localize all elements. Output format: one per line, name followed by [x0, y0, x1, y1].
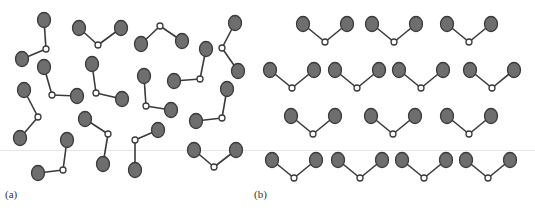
center-atom — [143, 103, 149, 109]
center-atom — [197, 76, 203, 82]
outer-atom — [188, 143, 201, 158]
molecule — [219, 16, 245, 79]
molecule — [79, 112, 112, 172]
molecule — [396, 153, 453, 182]
outer-atom — [437, 63, 450, 78]
molecule — [188, 143, 243, 171]
molecule — [266, 153, 323, 182]
outer-atom — [341, 17, 354, 32]
outer-atom — [71, 89, 84, 104]
molecule — [393, 63, 450, 92]
molecule — [38, 60, 84, 104]
center-atom — [418, 85, 424, 91]
molecule — [285, 109, 342, 138]
center-atom — [466, 131, 472, 137]
figure: (a) (b) — [0, 0, 535, 211]
outer-atom — [504, 153, 517, 168]
molecule — [264, 63, 321, 92]
molecule — [329, 63, 386, 92]
outer-atom — [329, 63, 342, 78]
panel-a-disordered — [14, 13, 245, 181]
outer-atom — [116, 92, 129, 107]
outer-atom — [200, 42, 213, 57]
outer-atom — [232, 64, 245, 79]
outer-atom — [460, 153, 473, 168]
outer-atom — [176, 34, 189, 49]
panel-b-label: (b) — [254, 188, 267, 200]
outer-atom — [441, 17, 454, 32]
outer-atom — [16, 52, 29, 67]
outer-atom — [410, 17, 423, 32]
center-atom — [391, 39, 397, 45]
outer-atom — [373, 63, 386, 78]
outer-atom — [152, 123, 165, 138]
center-atom — [354, 85, 360, 91]
outer-atom — [79, 112, 92, 127]
molecule — [366, 17, 423, 46]
molecule — [460, 153, 517, 182]
center-atom — [211, 164, 217, 170]
outer-atom — [508, 63, 521, 78]
outer-atom — [297, 17, 310, 32]
outer-atom — [264, 63, 277, 78]
molecule — [16, 13, 51, 67]
center-atom — [390, 131, 396, 137]
outer-atom — [190, 114, 203, 129]
center-atom — [49, 92, 55, 98]
outer-atom — [376, 153, 389, 168]
center-atom — [357, 175, 363, 181]
molecule-diagram — [0, 0, 535, 211]
molecule — [297, 17, 354, 46]
center-atom — [157, 23, 163, 29]
center-atom — [322, 39, 328, 45]
molecule — [129, 123, 165, 178]
outer-atom — [396, 153, 409, 168]
center-atom — [485, 175, 491, 181]
outer-atom — [221, 82, 234, 97]
molecule — [135, 23, 189, 52]
center-atom — [489, 85, 495, 91]
outer-atom — [440, 153, 453, 168]
outer-atom — [332, 153, 345, 168]
center-atom — [466, 39, 472, 45]
outer-atom — [32, 166, 45, 181]
molecule — [168, 42, 213, 89]
molecule — [441, 109, 498, 138]
outer-atom — [18, 83, 31, 98]
center-atom — [421, 175, 427, 181]
center-atom — [43, 46, 49, 52]
center-atom — [95, 42, 101, 48]
panel-a-label: (a) — [5, 188, 17, 200]
outer-atom — [229, 16, 242, 31]
outer-atom — [409, 109, 422, 124]
outer-atom — [485, 17, 498, 32]
center-atom — [60, 167, 66, 173]
center-atom — [291, 175, 297, 181]
outer-atom — [365, 109, 378, 124]
outer-atom — [329, 109, 342, 124]
outer-atom — [86, 57, 99, 72]
molecule — [190, 82, 234, 129]
outer-atom — [38, 60, 51, 75]
outer-atom — [165, 103, 178, 118]
panel-b-ordered — [264, 17, 521, 182]
outer-atom — [393, 63, 406, 78]
outer-atom — [310, 153, 323, 168]
center-atom — [289, 85, 295, 91]
outer-atom — [285, 109, 298, 124]
outer-atom — [168, 74, 181, 89]
molecule — [365, 109, 422, 138]
molecule — [441, 17, 498, 46]
molecule — [14, 83, 42, 146]
center-atom — [35, 114, 41, 120]
outer-atom — [129, 163, 142, 178]
outer-atom — [441, 109, 454, 124]
outer-atom — [308, 63, 321, 78]
molecule — [32, 133, 74, 181]
center-atom — [93, 90, 99, 96]
molecule — [86, 57, 129, 107]
center-atom — [219, 115, 225, 121]
outer-atom — [115, 21, 128, 36]
molecule — [73, 21, 128, 49]
outer-atom — [61, 133, 74, 148]
